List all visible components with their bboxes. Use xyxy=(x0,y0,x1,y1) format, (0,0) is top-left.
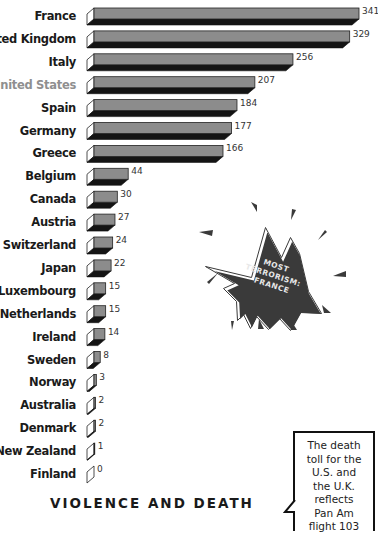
bar-row: New Zealand1 xyxy=(0,441,104,460)
country-label: Australia xyxy=(20,398,76,412)
bar-bottom-face xyxy=(87,65,293,71)
value-label: 14 xyxy=(108,327,120,337)
country-label: Spain xyxy=(41,101,76,115)
bars-group: France341United Kingdom329Italy256United… xyxy=(0,6,378,483)
value-label: 2 xyxy=(99,395,105,405)
country-label: Luxembourg xyxy=(0,284,76,298)
bar-end-face xyxy=(87,466,94,483)
bar-face xyxy=(94,54,293,65)
bar-bottom-face xyxy=(87,156,223,162)
value-label: 22 xyxy=(114,258,125,268)
bar-face xyxy=(94,100,237,111)
bar-row: United States207 xyxy=(0,75,275,94)
bar-row: Belgium44 xyxy=(25,166,143,185)
bar-face xyxy=(94,420,96,431)
value-label: 207 xyxy=(258,75,275,85)
bar-row: Austria27 xyxy=(31,212,129,231)
bar-bottom-face xyxy=(87,179,128,185)
bar-row: Ireland14 xyxy=(32,327,119,346)
callout-line: The death xyxy=(297,439,371,453)
value-label: 1 xyxy=(98,441,104,451)
bar-row: Germany177 xyxy=(20,121,252,140)
bar-face xyxy=(94,283,106,294)
bar-bottom-face xyxy=(87,19,359,25)
bar-face xyxy=(94,397,96,408)
country-label: Netherlands xyxy=(0,307,76,321)
bar-row: Switzerland24 xyxy=(3,235,128,254)
bar-row: Finland0 xyxy=(30,464,103,483)
bar-face xyxy=(94,260,111,271)
bar-face xyxy=(94,374,96,385)
bar-face xyxy=(94,352,100,363)
bar-bottom-face xyxy=(87,42,350,48)
country-label: France xyxy=(34,9,76,23)
bar-row: Norway3 xyxy=(29,372,105,391)
value-label: 44 xyxy=(131,166,143,176)
value-label: 15 xyxy=(109,304,120,314)
bar-face xyxy=(94,191,117,202)
bar-face xyxy=(94,8,359,19)
bar-row: France341 xyxy=(34,6,378,25)
bar-row: Japan22 xyxy=(40,258,125,277)
country-label: Belgium xyxy=(25,169,76,183)
country-label: Finland xyxy=(30,467,76,481)
bar-face xyxy=(94,123,232,134)
value-label: 0 xyxy=(97,464,103,474)
value-label: 8 xyxy=(103,350,109,360)
bar-face xyxy=(94,31,350,42)
bar-row: Netherlands15 xyxy=(0,304,120,323)
bar-face xyxy=(94,329,105,340)
country-label: Italy xyxy=(49,55,77,69)
country-label: New Zealand xyxy=(0,444,76,458)
bar-face xyxy=(94,214,115,225)
value-label: 329 xyxy=(353,29,370,39)
value-label: 15 xyxy=(109,281,120,291)
callout-line: toll for the xyxy=(297,453,371,467)
country-label: Ireland xyxy=(32,330,76,344)
country-label: Germany xyxy=(20,124,77,138)
bar-row: Denmark2 xyxy=(20,418,105,437)
bar-row: Sweden8 xyxy=(27,350,109,369)
bar-bottom-face xyxy=(87,88,255,94)
value-label: 27 xyxy=(118,212,129,222)
country-label: Sweden xyxy=(27,353,76,367)
value-label: 177 xyxy=(235,121,252,131)
country-label: United States xyxy=(0,78,76,92)
chart-title: VIOLENCE AND DEATH xyxy=(50,495,254,511)
bar-face xyxy=(94,77,255,88)
callout-line: flight 103 xyxy=(297,520,371,534)
bar-row: Canada30 xyxy=(30,189,132,208)
country-label: Denmark xyxy=(20,421,77,435)
value-label: 184 xyxy=(240,98,257,108)
country-label: Greece xyxy=(32,146,76,160)
country-label: United Kingdom xyxy=(0,32,76,46)
callout-line: U.S. and xyxy=(297,466,371,480)
bar-face xyxy=(94,237,113,248)
bar-row: Luxembourg15 xyxy=(0,281,120,300)
bar-face xyxy=(94,145,223,156)
callout-line: reflects xyxy=(297,493,371,507)
bar-face xyxy=(94,168,128,179)
bar-row: Spain184 xyxy=(41,98,257,117)
callout-pointer xyxy=(283,500,297,517)
value-label: 256 xyxy=(296,52,313,62)
value-label: 166 xyxy=(226,143,243,153)
bar-row: Greece166 xyxy=(32,143,243,162)
starburst-annotation: MOST TERRORISM: FRANCE xyxy=(199,202,346,332)
country-label: Japan xyxy=(40,261,76,275)
value-label: 30 xyxy=(120,189,132,199)
country-label: Canada xyxy=(30,192,76,206)
country-label: Austria xyxy=(31,215,76,229)
bar-row: United Kingdom329 xyxy=(0,29,370,48)
value-label: 3 xyxy=(99,372,105,382)
bar-row: Australia2 xyxy=(20,395,104,414)
value-label: 24 xyxy=(116,235,128,245)
bar-row: Italy256 xyxy=(49,52,314,71)
callout-line: the U.K. xyxy=(297,480,371,494)
value-label: 341 xyxy=(362,6,378,16)
bar-bottom-face xyxy=(87,134,232,140)
value-label: 2 xyxy=(99,418,105,428)
bar-bottom-face xyxy=(87,111,237,117)
country-label: Switzerland xyxy=(3,238,76,252)
bar-face xyxy=(94,443,95,454)
